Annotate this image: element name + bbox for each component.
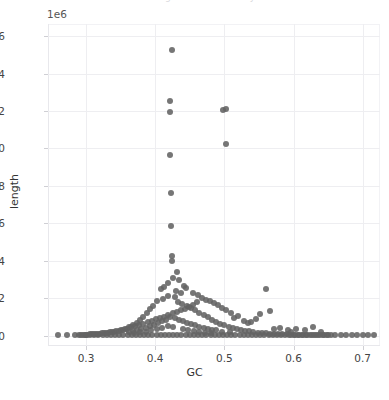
gridline-horizontal [48, 261, 380, 262]
scatter-point [167, 152, 173, 158]
scatter-point [310, 324, 316, 330]
y-tick-label: 0.2 [0, 292, 5, 304]
y-tick-mark [44, 298, 48, 299]
y-tick-label: 0.4 [0, 255, 5, 267]
y-tick-mark [44, 336, 48, 337]
x-tick-label: 0.6 [285, 352, 302, 364]
scatter-point [174, 269, 180, 275]
y-tick-label: 1.0 [0, 142, 5, 154]
scatter-point [263, 286, 269, 292]
x-tick-mark [294, 346, 295, 350]
scatter-point [170, 275, 176, 281]
gridline-horizontal [48, 111, 380, 112]
scatter-point [154, 298, 160, 304]
scatter-point [167, 109, 173, 115]
axis-spine-bottom [48, 345, 380, 346]
scatter-point [64, 332, 70, 338]
scatter-point [160, 296, 166, 302]
scatter-point [371, 332, 377, 338]
scatter-point [219, 329, 225, 335]
y-tick-label: 0.6 [0, 217, 5, 229]
scatter-point [167, 98, 173, 104]
scatter-point [302, 327, 308, 333]
x-tick-label: 0.4 [147, 352, 164, 364]
clipped-title-text: length distribution by GC [150, 0, 389, 2]
y-tick-mark [44, 148, 48, 149]
scatter-point [231, 315, 237, 321]
x-tick-mark [155, 346, 156, 350]
scatter-point [159, 325, 165, 331]
gridline-horizontal [48, 148, 380, 149]
x-tick-mark [86, 346, 87, 350]
scatter-point [277, 325, 283, 331]
scatter-plot-figure: length distribution by GC 1e6 0.00.20.40… [0, 0, 389, 400]
scatter-point [293, 326, 299, 332]
y-tick-label: 0.8 [0, 180, 5, 192]
axis-spine-top [48, 24, 380, 25]
clipped-title: length distribution by GC [150, 0, 389, 2]
scatter-point [318, 329, 324, 335]
y-tick-label: 0.0 [0, 330, 5, 342]
scatter-point [257, 311, 263, 317]
y-tick-mark [44, 74, 48, 75]
scatter-point [245, 320, 251, 326]
scatter-point [176, 277, 182, 283]
gridline-horizontal [48, 36, 380, 37]
plot-area [48, 24, 380, 346]
scatter-point [183, 285, 189, 291]
x-tick-label: 0.3 [78, 352, 95, 364]
x-tick-label: 0.5 [216, 352, 233, 364]
scatter-point [154, 326, 160, 332]
scatter-point [55, 332, 61, 338]
y-tick-label: 1.6 [0, 30, 5, 42]
y-tick-label: 1.4 [0, 68, 5, 80]
scatter-point [173, 288, 179, 294]
scatter-point [169, 47, 175, 53]
y-tick-mark [44, 186, 48, 187]
scatter-point [208, 330, 214, 336]
gridline-horizontal [48, 186, 380, 187]
scatter-point [143, 329, 149, 335]
scatter-point [267, 308, 273, 314]
y-tick-label: 1.2 [0, 105, 5, 117]
scatter-point [168, 190, 174, 196]
x-tick-label: 0.7 [354, 352, 371, 364]
x-tick-mark [363, 346, 364, 350]
x-axis-label: GC [0, 366, 389, 379]
y-tick-mark [44, 36, 48, 37]
y-tick-mark [44, 223, 48, 224]
scatter-point [223, 141, 229, 147]
gridline-horizontal [48, 74, 380, 75]
y-axis-label: length [8, 152, 21, 232]
x-tick-mark [224, 346, 225, 350]
scatter-point [169, 258, 175, 264]
scatter-point [170, 324, 176, 330]
scatter-point [165, 323, 171, 329]
scatter-point [158, 286, 164, 292]
scatter-point [168, 223, 174, 229]
y-tick-mark [44, 261, 48, 262]
gridline-horizontal [48, 223, 380, 224]
y-tick-mark [44, 111, 48, 112]
y-axis-offset-text: 1e6 [47, 8, 67, 20]
